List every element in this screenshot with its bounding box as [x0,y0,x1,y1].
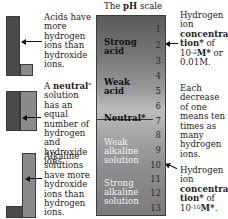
acid-note: Acids have more hydrogen ions than hydro… [44,13,94,69]
ph-7: 7 [156,116,161,126]
ph-9: 9 [156,145,161,155]
decrease-note: Each decrease of one means ten times as … [180,84,228,159]
ph-3: 3 [156,56,161,66]
acid-hydrogen-bar [6,16,20,76]
acid-hydroxide-bar [20,64,33,76]
acid-arrow-icon [24,41,42,42]
alkaline-hydroxide-bar [22,153,36,218]
ph-2: 2 [156,40,161,50]
label-neutral: Neutral* [104,114,145,123]
label-weak-alkaline: Weakalkalinesolution [104,138,139,165]
ph2-concentration-note: Hydrogen ion concentra- tion* of 10-2M* … [180,11,228,67]
ph10-pointer-icon [168,164,177,169]
neutral-hydrogen-bar [6,91,20,131]
neutral-hydroxide-bar [20,91,37,131]
ph-12: 12 [150,188,161,198]
ph-13: 13 [150,203,161,213]
ph-8: 8 [156,130,161,140]
ph-6: 6 [156,101,161,111]
alkaline-hydrogen-bar [6,206,23,218]
label-strong-alkaline: Strongalkalinesolution [104,179,139,206]
ph-10: 10 [150,160,161,170]
ph-5: 5 [156,86,161,96]
label-strong-acid: Strongacid [104,38,137,56]
ph-scale-bar: 1 2 3 4 5 6 7 8 9 10 11 12 13 Strongacid… [96,15,166,216]
label-weak-acid: Weakacid [104,78,130,96]
ph-4: 4 [156,71,161,81]
neutral-arrow-icon [25,117,41,118]
alkaline-arrow-icon [28,178,42,179]
diagram-title: The pH scale [104,1,162,11]
ph2-pointer-icon [168,43,178,44]
ph10-concentration-note: Hydrogen ion concentra- tion* of 10-10M*… [180,166,228,213]
ph-1: 1 [156,24,161,34]
alkaline-note: Alkaline solutions have more hydroxide i… [44,152,94,218]
ph-11: 11 [150,174,161,184]
